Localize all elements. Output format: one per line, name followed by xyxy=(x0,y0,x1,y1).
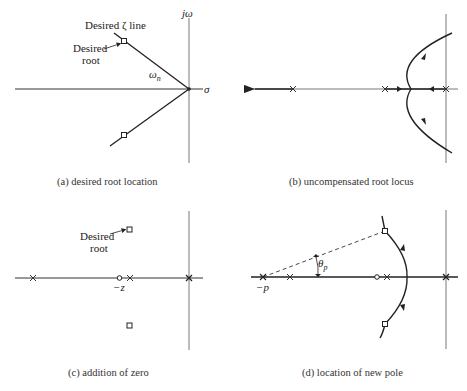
arrow-left-real xyxy=(429,86,434,92)
panel-c: Desired root −z (c) addition of zero xyxy=(15,211,203,379)
panel-a: Desired ζ line Desired root ωn jω σ (a) … xyxy=(15,7,210,188)
panel-d: θp −p (d) location of new pole xyxy=(251,210,458,379)
theta-p-label: θp xyxy=(318,257,327,272)
desired-root-marker xyxy=(127,227,132,232)
desired-root-conj-marker xyxy=(383,322,388,327)
desired-root-marker xyxy=(383,229,388,234)
desired-root-label-2: root xyxy=(90,242,108,254)
zeta-line-label: Desired ζ line xyxy=(85,19,146,32)
arrow-lower xyxy=(421,118,426,125)
desired-root-conj-marker xyxy=(127,323,132,328)
sigma-label: σ xyxy=(204,83,210,95)
zero-marker xyxy=(117,276,122,281)
desired-root-label-1: Desired xyxy=(80,230,115,242)
desired-root-label-2: root xyxy=(82,54,100,66)
j-omega-label: jω xyxy=(180,7,193,19)
origin-dot xyxy=(187,87,191,91)
arrow-lower xyxy=(400,304,405,311)
caption-c: (c) addition of zero xyxy=(68,367,149,379)
omega-n-label: ωn xyxy=(149,68,161,83)
caption-a: (a) desired root location xyxy=(57,176,158,188)
panel-b: (b) uncompensated root locus xyxy=(253,14,458,188)
arrow-right-real xyxy=(397,86,402,92)
root-locus-figure: Desired ζ line Desired root ωn jω σ (a) … xyxy=(0,0,467,391)
arrow-upper xyxy=(421,53,426,60)
desired-root-label-1: Desired xyxy=(73,42,108,54)
caption-b: (b) uncompensated root locus xyxy=(289,176,414,188)
desired-root-marker xyxy=(122,39,127,44)
zero-marker xyxy=(375,275,380,280)
caption-d: (d) location of new pole xyxy=(302,367,403,379)
locus-breakaway-curve xyxy=(407,33,452,153)
new-pole-label: −p xyxy=(256,281,269,293)
desired-root-conj-marker xyxy=(122,133,127,138)
arrow-upper xyxy=(400,244,405,251)
zero-label: −z xyxy=(113,281,125,293)
